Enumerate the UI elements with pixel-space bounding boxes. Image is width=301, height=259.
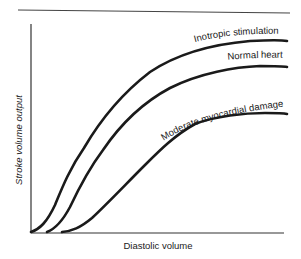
label-normal-heart: Normal heart: [227, 49, 283, 62]
y-axis-label: Stroke volume output: [13, 95, 24, 185]
top-rule: [18, 10, 290, 13]
curve-inotropic-stimulation: [31, 40, 287, 232]
x-axis-label: Diastolic volume: [123, 240, 192, 251]
chart-canvas: Inotropic stimulation Normal heart Moder…: [0, 0, 301, 259]
